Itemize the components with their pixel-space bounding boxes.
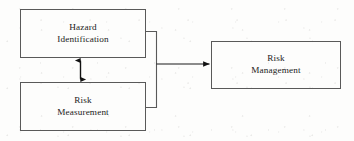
merge-bracket-connector [146, 32, 210, 108]
merge-bracket-path [146, 32, 157, 108]
node-risk-management-line1: Risk [267, 53, 284, 65]
node-risk-measurement: Risk Measurement [20, 82, 146, 131]
node-risk-management: Risk Management [211, 41, 341, 89]
node-risk-management-line2: Management [251, 65, 300, 77]
node-risk-measurement-line1: Risk [74, 95, 91, 107]
node-hazard-identification-line1: Hazard [69, 22, 96, 34]
node-hazard-identification: Hazard Identification [20, 9, 146, 58]
diagram-canvas: Hazard Identification Risk Measurement R… [0, 0, 354, 141]
node-hazard-identification-line2: Identification [57, 34, 109, 46]
node-risk-measurement-line2: Measurement [57, 107, 109, 119]
